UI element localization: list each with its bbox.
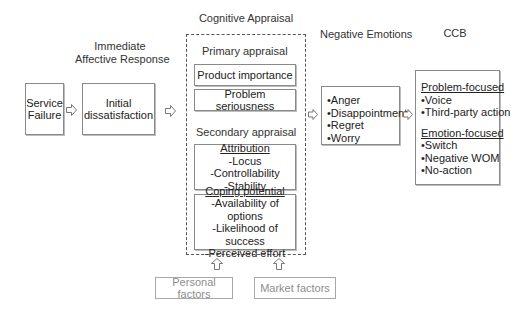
- service-failure-line: Service: [26, 97, 63, 110]
- personal-factors-text: Personal factors: [156, 276, 232, 301]
- right-arrow-icon: [165, 105, 176, 117]
- right-arrow-icon: [66, 104, 77, 116]
- market-factors-box: Market factors: [254, 277, 336, 299]
- service-failure-box: Service Failure: [25, 83, 64, 135]
- product-importance-box: Product importance: [194, 64, 296, 86]
- immediate-affective-response-title: Immediate Affective Response: [75, 40, 165, 66]
- negative-emotions-title: Negative Emotions: [320, 28, 405, 41]
- coping-potential-box: Coping potential -Availability of option…: [194, 194, 296, 250]
- initial-dissatisfaction-box: Initial dissatisfaction: [82, 83, 155, 135]
- emotion-item: •Worry: [327, 132, 399, 145]
- attribution-heading: Attribution: [220, 142, 270, 155]
- product-importance-text: Product importance: [197, 69, 292, 82]
- coping-potential-heading: Coping potential: [205, 185, 285, 198]
- attribution-item: -Locus: [228, 155, 261, 168]
- problem-focused-heading: Problem-focused: [421, 81, 499, 94]
- right-arrow-icon: [308, 109, 318, 120]
- title-line: Immediate: [75, 40, 165, 53]
- ccb-item: •Third-party action: [421, 106, 499, 119]
- negative-emotions-box: •Anger •Disappointment •Regret •Worry: [321, 86, 400, 145]
- ccb-box: Problem-focused •Voice •Third-party acti…: [415, 70, 500, 185]
- ccb-item: •No-action: [421, 164, 499, 177]
- coping-item: -Likelihood of success: [195, 222, 295, 247]
- emotion-item: •Disappointment: [327, 107, 399, 120]
- initial-dissatisfaction-line: dissatisfaction: [84, 109, 153, 122]
- emotion-focused-heading: Emotion-focused: [421, 127, 499, 140]
- ccb-item: •Negative WOM: [421, 152, 499, 165]
- attribution-box: Attribution -Locus -Controllability -Sta…: [194, 144, 296, 190]
- ccb-item: •Voice: [421, 94, 499, 107]
- right-arrow-icon: [403, 109, 413, 120]
- secondary-appraisal-label: Secondary appraisal: [190, 126, 306, 139]
- ccb-item: •Switch: [421, 139, 499, 152]
- initial-dissatisfaction-line: Initial: [106, 97, 132, 110]
- problem-seriousness-text: Problem seriousness: [195, 88, 295, 113]
- problem-seriousness-box: Problem seriousness: [194, 89, 296, 111]
- coping-item: -Availability of options: [195, 197, 295, 222]
- attribution-item: -Controllability: [210, 167, 280, 180]
- up-arrow-icon: [211, 258, 223, 270]
- emotion-item: •Anger: [327, 94, 399, 107]
- ccb-title: CCB: [435, 27, 475, 40]
- market-factors-text: Market factors: [260, 282, 330, 295]
- service-failure-line: Failure: [28, 109, 62, 122]
- personal-factors-box: Personal factors: [155, 277, 233, 299]
- primary-appraisal-label: Primary appraisal: [190, 45, 302, 58]
- cognitive-appraisal-title: Cognitive Appraisal: [186, 12, 306, 25]
- emotion-item: •Regret: [327, 119, 399, 132]
- title-line: Affective Response: [75, 53, 165, 66]
- up-arrow-icon: [273, 258, 285, 270]
